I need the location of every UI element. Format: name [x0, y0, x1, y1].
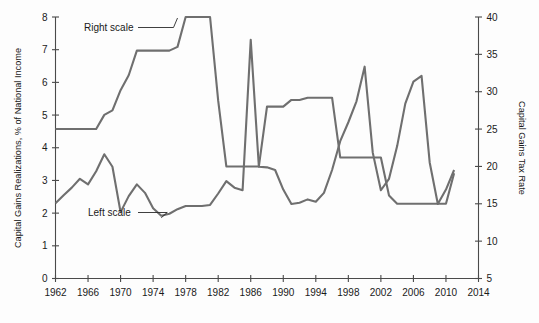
- x-tick-label: 1982: [207, 287, 230, 298]
- annotation-right-scale-label: Right scale: [84, 22, 134, 33]
- capital-gains-chart: 012345678 510152025303540 19621966197019…: [0, 0, 539, 323]
- chart-background: [0, 0, 539, 323]
- x-tick-label: 1970: [109, 287, 132, 298]
- x-tick-label: 2010: [435, 287, 458, 298]
- left-tick-label: 7: [42, 44, 48, 55]
- x-tick-label: 2014: [467, 287, 490, 298]
- x-tick-label: 1974: [142, 287, 165, 298]
- left-axis-title: Capital Gains Realizations, % of Nationa…: [13, 48, 23, 248]
- left-tick-label: 0: [42, 273, 48, 284]
- left-tick-label: 8: [42, 12, 48, 23]
- right-tick-label: 35: [487, 49, 499, 60]
- x-tick-label: 1986: [240, 287, 263, 298]
- x-tick-label: 1962: [44, 287, 67, 298]
- right-tick-label: 20: [487, 161, 499, 172]
- right-tick-label: 40: [487, 12, 499, 23]
- right-tick-label: 15: [487, 198, 499, 209]
- x-tick-label: 1994: [305, 287, 328, 298]
- x-tick-label: 1978: [175, 287, 198, 298]
- right-tick-label: 5: [487, 273, 493, 284]
- x-tick-label: 1990: [272, 287, 295, 298]
- x-tick-label: 2002: [370, 287, 393, 298]
- right-tick-label: 30: [487, 86, 499, 97]
- left-tick-label: 4: [42, 142, 48, 153]
- x-tick-label: 2006: [402, 287, 425, 298]
- right-tick-label: 25: [487, 124, 499, 135]
- x-tick-label: 1998: [337, 287, 360, 298]
- left-tick-label: 3: [42, 175, 48, 186]
- x-tick-label: 1966: [77, 287, 100, 298]
- left-tick-label: 6: [42, 77, 48, 88]
- right-axis-title: Capital Gains Tax Rate: [517, 101, 527, 195]
- annotation-left-scale-label: Left scale: [88, 207, 131, 218]
- left-tick-label: 5: [42, 110, 48, 121]
- left-tick-label: 1: [42, 240, 48, 251]
- right-tick-label: 10: [487, 236, 499, 247]
- left-tick-label: 2: [42, 208, 48, 219]
- chart-figure: 012345678 510152025303540 19621966197019…: [0, 0, 539, 323]
